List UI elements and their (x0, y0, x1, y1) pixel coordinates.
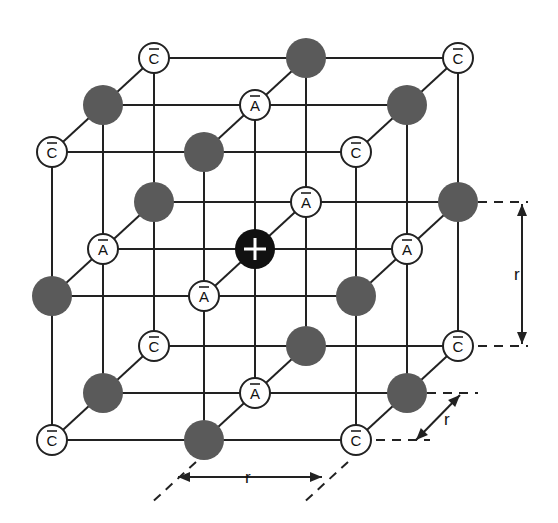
depth-r-label: r (444, 410, 450, 429)
dim-dash (149, 462, 196, 505)
cation-ion-label: C (149, 338, 160, 355)
gray-ion (286, 326, 326, 366)
anion-ion-label: A (250, 385, 260, 402)
cation-ion-label: C (47, 432, 58, 449)
cation-ion-label: C (351, 144, 362, 161)
anion-ion-label: A (250, 97, 260, 114)
vertical-r-label: r (514, 265, 520, 284)
lattice-svg: rrr CCACCAAAACCACC (0, 0, 558, 523)
lattice-ions: CCACCAAAACCACC (32, 38, 478, 460)
anion-ion-label: A (402, 241, 412, 258)
arrowhead-icon (310, 472, 322, 482)
gray-ion (32, 276, 72, 316)
gray-ion (184, 420, 224, 460)
gray-ion (387, 373, 427, 413)
cation-ion-label: C (351, 432, 362, 449)
gray-ion (134, 182, 174, 222)
gray-ion (83, 85, 123, 125)
gray-ion (336, 276, 376, 316)
cation-ion-label: C (47, 144, 58, 161)
cation-ion-label: C (453, 50, 464, 67)
lattice-diagram: rrr CCACCAAAACCACC (0, 0, 558, 523)
gray-ion (387, 85, 427, 125)
anion-ion-label: A (98, 241, 108, 258)
arrowhead-icon (517, 204, 527, 216)
horizontal-r-label: r (245, 468, 251, 487)
gray-ion (286, 38, 326, 78)
dim-dash (301, 462, 348, 505)
anion-ion-label: A (301, 194, 311, 211)
cation-ion-label: C (149, 50, 160, 67)
arrowhead-icon (517, 332, 527, 344)
gray-ion (184, 132, 224, 172)
gray-ion (438, 182, 478, 222)
anion-ion-label: A (199, 288, 209, 305)
cation-ion-label: C (453, 338, 464, 355)
gray-ion (83, 373, 123, 413)
